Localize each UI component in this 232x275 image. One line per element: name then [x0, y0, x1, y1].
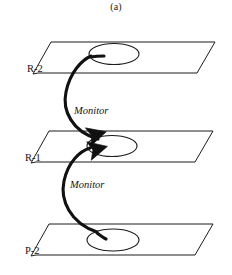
plane-group-p2: P-2: [25, 224, 213, 256]
layered-plane-diagram: R-2 R-1 P-2 Monitor Monitor: [0, 0, 232, 275]
plane-group-r2: R-2: [27, 42, 215, 74]
edge-monitor-upper-tail: [91, 56, 104, 57]
figure-container: (a) R-2 R-1 P-2 Monitor: [0, 0, 232, 275]
plane-p2-label: P-2: [25, 245, 40, 256]
plane-group-r1: R-1: [25, 131, 213, 163]
plane-r2-node-ellipse: [89, 44, 139, 65]
plane-r1-label: R-1: [25, 152, 41, 163]
plane-r2-label: R-2: [27, 63, 43, 74]
edge-monitor-lower-label: Monitor: [69, 179, 105, 190]
edge-monitor-upper-label: Monitor: [73, 105, 109, 116]
